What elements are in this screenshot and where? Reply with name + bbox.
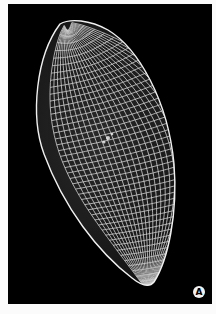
figure-caption xyxy=(12,308,208,314)
wireframe-mesh-graphic xyxy=(8,4,212,304)
figure-page: A xyxy=(0,0,216,314)
panel-label-badge: A xyxy=(193,286,205,298)
figure-panel: A xyxy=(8,4,212,304)
